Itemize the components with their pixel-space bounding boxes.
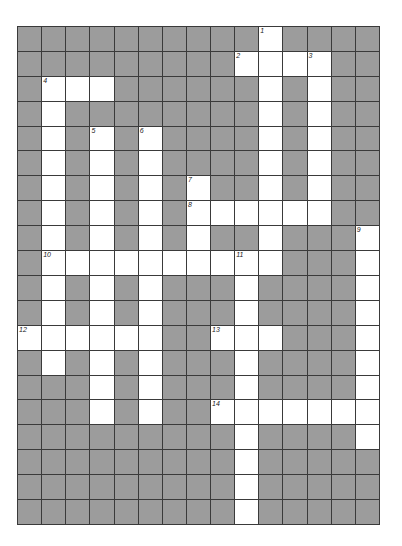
crossword-cell-open[interactable] [308,151,331,175]
crossword-cell-open[interactable] [259,127,282,151]
crossword-cell-open[interactable]: 4 [42,77,65,101]
crossword-cell-open[interactable] [187,251,210,275]
crossword-cell-open[interactable] [283,52,306,76]
crossword-cell-open[interactable] [66,326,89,350]
crossword-cell-open[interactable] [259,52,282,76]
crossword-cell-open[interactable]: 11 [235,251,258,275]
crossword-cell-open[interactable] [308,201,331,225]
crossword-cell-open[interactable]: 8 [187,201,210,225]
crossword-cell-open[interactable] [235,326,258,350]
crossword-cell-open[interactable] [235,500,258,524]
crossword-cell-open[interactable] [259,151,282,175]
crossword-cell-open[interactable]: 2 [235,52,258,76]
crossword-cell-open[interactable] [308,176,331,200]
crossword-cell-open[interactable] [308,102,331,126]
crossword-cell-open[interactable]: 13 [211,326,234,350]
crossword-cell-open[interactable] [139,226,162,250]
crossword-cell-open[interactable] [42,151,65,175]
crossword-cell-open[interactable] [90,301,113,325]
crossword-cell-open[interactable] [308,400,331,424]
crossword-cell-open[interactable] [139,326,162,350]
crossword-cell-open[interactable] [235,301,258,325]
crossword-cell-open[interactable] [235,351,258,375]
crossword-cell-open[interactable] [115,251,138,275]
crossword-cell-open[interactable]: 5 [90,127,113,151]
crossword-cell-open[interactable] [235,201,258,225]
crossword-cell-open[interactable] [235,475,258,499]
crossword-cell-open[interactable] [42,201,65,225]
crossword-cell-open[interactable] [90,77,113,101]
crossword-cell-open[interactable] [90,226,113,250]
crossword-cell-open[interactable] [356,351,379,375]
crossword-cell-open[interactable] [115,326,138,350]
crossword-cell-open[interactable] [90,251,113,275]
crossword-cell-open[interactable] [42,326,65,350]
crossword-cell-open[interactable] [259,226,282,250]
crossword-cell-open[interactable] [283,201,306,225]
crossword-cell-open[interactable] [308,77,331,101]
crossword-cell-open[interactable] [42,176,65,200]
crossword-cell-open[interactable]: 7 [187,176,210,200]
crossword-cell-open[interactable] [42,102,65,126]
clue-number: 2 [236,52,240,60]
crossword-cell-open[interactable] [90,176,113,200]
crossword-cell-open[interactable] [139,301,162,325]
crossword-cell-open[interactable]: 14 [211,400,234,424]
crossword-cell-open[interactable] [187,226,210,250]
crossword-cell-open[interactable] [90,326,113,350]
crossword-cell-open[interactable] [139,351,162,375]
crossword-cell-open[interactable] [42,226,65,250]
crossword-cell-open[interactable] [90,376,113,400]
crossword-cell-open[interactable] [356,376,379,400]
crossword-cell-open[interactable] [42,351,65,375]
crossword-cell-open[interactable] [259,400,282,424]
crossword-cell-open[interactable] [259,326,282,350]
crossword-cell-open[interactable] [42,127,65,151]
crossword-cell-open[interactable] [356,326,379,350]
crossword-cell-open[interactable] [211,201,234,225]
crossword-cell-open[interactable] [90,201,113,225]
crossword-cell-open[interactable] [259,77,282,101]
crossword-cell-open[interactable] [139,151,162,175]
crossword-cell-open[interactable] [139,400,162,424]
crossword-cell-open[interactable] [259,201,282,225]
crossword-cell-open[interactable] [211,251,234,275]
crossword-cell-open[interactable] [90,400,113,424]
crossword-cell-open[interactable] [259,102,282,126]
crossword-cell-open[interactable] [235,425,258,449]
crossword-cell-open[interactable] [90,351,113,375]
crossword-cell-open[interactable]: 12 [18,326,41,350]
crossword-cell-open[interactable] [139,376,162,400]
crossword-cell-open[interactable]: 10 [42,251,65,275]
crossword-cell-open[interactable] [259,251,282,275]
crossword-cell-open[interactable] [356,251,379,275]
crossword-cell-open[interactable] [356,425,379,449]
crossword-cell-open[interactable] [42,276,65,300]
crossword-cell-open[interactable] [235,450,258,474]
crossword-cell-open[interactable] [235,400,258,424]
crossword-cell-open[interactable] [163,251,186,275]
crossword-cell-open[interactable] [139,201,162,225]
crossword-cell-open[interactable] [259,176,282,200]
crossword-cell-open[interactable] [356,276,379,300]
crossword-cell-open[interactable] [235,276,258,300]
crossword-cell-open[interactable] [42,301,65,325]
crossword-cell-open[interactable] [308,127,331,151]
crossword-cell-open[interactable]: 9 [356,226,379,250]
crossword-cell-open[interactable] [356,301,379,325]
crossword-cell-open[interactable] [139,251,162,275]
crossword-cell-open[interactable] [66,251,89,275]
crossword-cell-open[interactable] [356,400,379,424]
crossword-cell-open[interactable] [139,176,162,200]
crossword-cell-open[interactable]: 3 [308,52,331,76]
crossword-cell-open[interactable] [332,400,355,424]
crossword-cell-open[interactable] [66,77,89,101]
crossword-cell-open[interactable]: 1 [259,27,282,51]
crossword-cell-open[interactable] [90,151,113,175]
crossword-cell-block [187,475,210,499]
crossword-cell-open[interactable] [283,400,306,424]
crossword-cell-open[interactable] [235,376,258,400]
crossword-cell-open[interactable] [90,276,113,300]
crossword-cell-open[interactable] [139,276,162,300]
crossword-cell-open[interactable]: 6 [139,127,162,151]
